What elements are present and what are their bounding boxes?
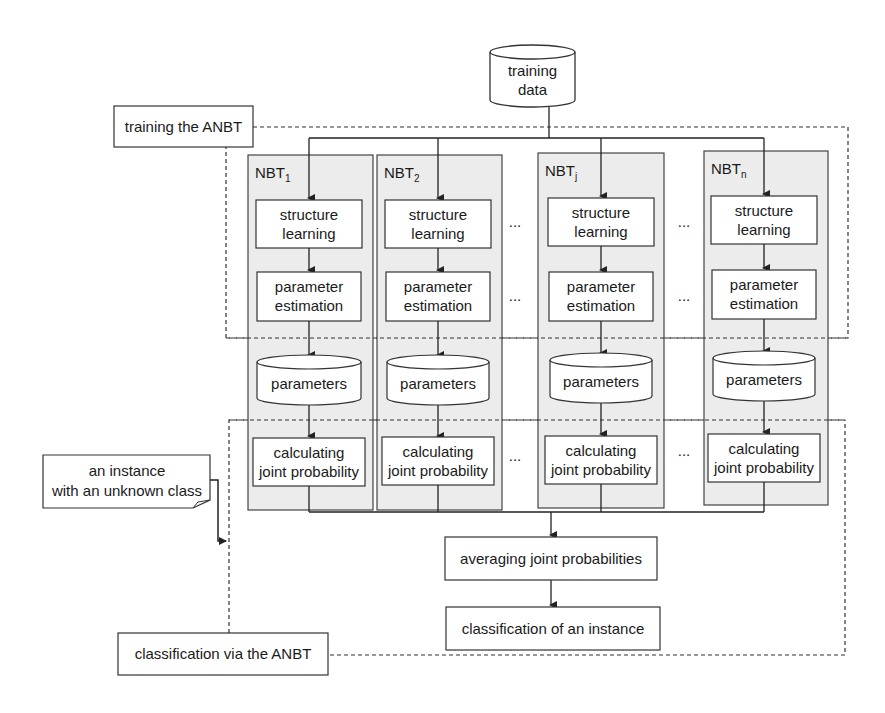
svg-text:an instance: an instance <box>89 462 166 479</box>
svg-text:parameter: parameter <box>275 278 343 295</box>
svg-text:averaging joint probabilities: averaging joint probabilities <box>460 550 642 567</box>
anbt-flow-diagram: NBT1 NBT2 NBTj NBTn training data traini… <box>0 0 885 713</box>
parameters-store: parameters <box>550 353 652 403</box>
svg-text:structure: structure <box>409 206 467 223</box>
svg-text:joint probability: joint probability <box>258 463 360 480</box>
svg-text:...: ... <box>509 287 522 304</box>
svg-text:parameter: parameter <box>567 278 635 295</box>
svg-text:joint probability: joint probability <box>387 462 489 479</box>
training-data-store: training data <box>490 45 575 107</box>
svg-text:...: ... <box>678 213 691 230</box>
svg-text:estimation: estimation <box>730 295 798 312</box>
structure-learning-box: structure learning <box>385 200 491 248</box>
parameters-store: parameters <box>713 351 815 401</box>
classification-phase-label: classification via the ANBT <box>118 633 328 675</box>
averaging-box: averaging joint probabilities <box>445 537 657 580</box>
svg-text:structure: structure <box>280 206 338 223</box>
svg-text:...: ... <box>509 447 522 464</box>
svg-text:parameters: parameters <box>726 371 802 388</box>
svg-text:estimation: estimation <box>567 297 635 314</box>
svg-text:calculating: calculating <box>403 443 474 460</box>
training-data-label-2: data <box>518 81 548 98</box>
svg-text:with an unknown class: with an unknown class <box>51 482 202 499</box>
svg-text:joint probability: joint probability <box>713 459 815 476</box>
joint-probability-box: calculating joint probability <box>382 437 494 485</box>
svg-text:...: ... <box>509 213 522 230</box>
input-instance-note: an instance with an unknown class <box>43 455 210 508</box>
svg-text:structure: structure <box>735 202 793 219</box>
svg-text:learning: learning <box>411 225 464 242</box>
classification-box: classification of an instance <box>446 607 660 650</box>
parameter-estimation-box: parameter estimation <box>712 270 816 319</box>
input-connector <box>210 480 226 541</box>
svg-text:estimation: estimation <box>404 297 472 314</box>
svg-text:calculating: calculating <box>274 444 345 461</box>
svg-text:...: ... <box>678 287 691 304</box>
joint-probability-box: calculating joint probability <box>545 436 657 484</box>
svg-text:training the ANBT: training the ANBT <box>125 118 243 135</box>
svg-text:structure: structure <box>572 204 630 221</box>
structure-learning-box: structure learning <box>548 198 654 246</box>
joint-probability-box: calculating joint probability <box>708 434 820 482</box>
svg-text:joint probability: joint probability <box>550 461 652 478</box>
svg-text:parameters: parameters <box>271 375 347 392</box>
svg-text:classification of an instance: classification of an instance <box>462 620 645 637</box>
parameters-store: parameters <box>257 355 361 405</box>
svg-text:calculating: calculating <box>729 440 800 457</box>
svg-text:parameters: parameters <box>400 375 476 392</box>
svg-text:parameter: parameter <box>730 276 798 293</box>
joint-probability-box: calculating joint probability <box>253 438 365 486</box>
svg-text:learning: learning <box>574 223 627 240</box>
svg-text:parameters: parameters <box>563 373 639 390</box>
structure-learning-box: structure learning <box>256 200 362 248</box>
svg-text:...: ... <box>678 442 691 459</box>
parameter-estimation-box: parameter estimation <box>257 272 361 321</box>
svg-text:estimation: estimation <box>275 297 343 314</box>
parameter-estimation-box: parameter estimation <box>386 272 490 321</box>
svg-text:learning: learning <box>737 221 790 238</box>
svg-text:calculating: calculating <box>566 442 637 459</box>
svg-text:learning: learning <box>282 225 335 242</box>
svg-text:parameter: parameter <box>404 278 472 295</box>
structure-learning-box: structure learning <box>711 196 817 244</box>
training-phase-label: training the ANBT <box>114 106 253 147</box>
parameters-store: parameters <box>387 355 489 405</box>
svg-text:classification via the ANBT: classification via the ANBT <box>135 645 312 662</box>
training-data-label-1: training <box>508 62 557 79</box>
parameter-estimation-box: parameter estimation <box>549 272 653 321</box>
